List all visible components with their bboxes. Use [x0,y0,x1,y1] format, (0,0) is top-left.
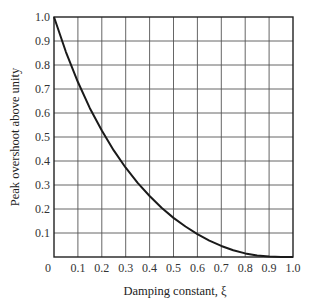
y-tick-label: 0.1 [35,226,50,240]
y-tick-label: 0.9 [35,34,50,48]
x-tick-label: 0.3 [118,261,133,275]
x-axis-tick-labels: 00.10.20.30.40.50.60.70.80.91.0 [45,261,301,275]
y-tick-label: 0.8 [35,58,50,72]
x-tick-label: 0.1 [70,261,85,275]
y-tick-label: 0.7 [35,82,50,96]
x-tick-label: 1.0 [286,261,301,275]
x-tick-label: 0.6 [190,261,205,275]
y-tick-label: 1.0 [35,10,50,24]
x-tick-label: 0.8 [238,261,253,275]
y-tick-label: 0.5 [35,130,50,144]
overshoot-chart: 00.10.20.30.40.50.60.70.80.91.0 0.10.20.… [0,0,312,305]
y-tick-label: 0.4 [35,154,50,168]
y-tick-label: 0.2 [35,202,50,216]
x-tick-label: 0.9 [262,261,277,275]
y-tick-label: 0.3 [35,178,50,192]
y-axis-tick-labels: 0.10.20.30.40.50.60.70.80.91.0 [35,10,50,240]
x-tick-label: 0.4 [142,261,157,275]
x-tick-label: 0.7 [214,261,229,275]
x-tick-label: 0.2 [94,261,109,275]
x-axis-title: Damping constant, ξ [123,284,227,298]
x-tick-label: 0.5 [166,261,181,275]
grid-lines [54,17,293,257]
y-tick-label: 0.6 [35,106,50,120]
y-axis-title: Peak overshoot above unity [8,67,22,206]
x-tick-label: 0 [45,261,51,275]
